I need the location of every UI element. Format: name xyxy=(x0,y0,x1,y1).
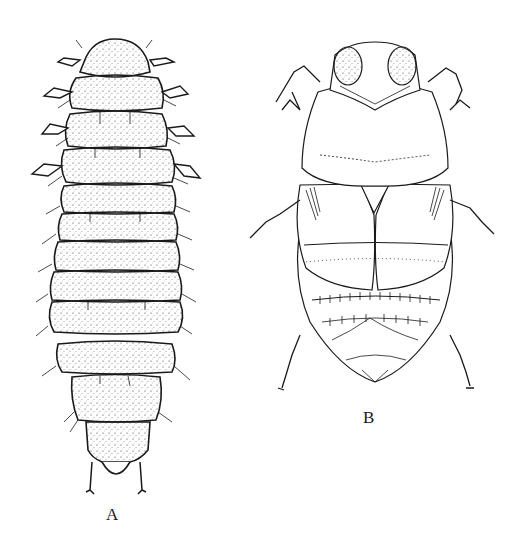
beetle-drawing xyxy=(297,42,453,382)
scientific-illustration: A B xyxy=(0,0,527,551)
panel-label-b: B xyxy=(363,409,374,426)
panel-label-a: A xyxy=(106,506,118,523)
larva-drawing xyxy=(49,39,182,474)
